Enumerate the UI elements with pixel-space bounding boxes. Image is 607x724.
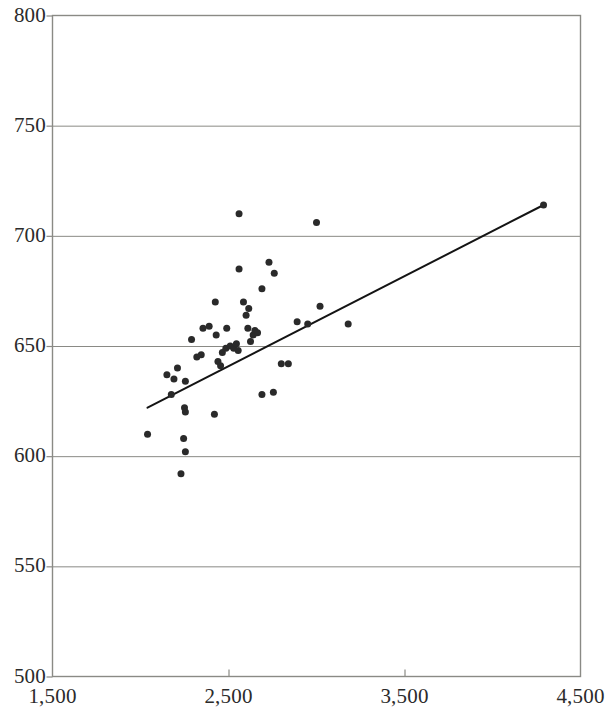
trendline — [148, 205, 544, 408]
data-point — [285, 360, 292, 367]
data-point — [177, 470, 184, 477]
data-point — [144, 431, 151, 438]
data-point — [313, 219, 320, 226]
y-axis-tick-label: 550 — [0, 555, 46, 576]
data-point — [236, 265, 243, 272]
data-point — [265, 259, 272, 266]
y-axis-tick-label: 650 — [0, 335, 46, 356]
x-axis-tick-label: 2,500 — [184, 686, 274, 707]
data-point — [223, 325, 230, 332]
data-point — [206, 323, 213, 330]
x-axis-tick-label: 1,500 — [8, 686, 98, 707]
data-point — [317, 303, 324, 310]
data-point — [294, 318, 301, 325]
x-axis-tick-label: 4,500 — [536, 686, 607, 707]
y-axis-tick-label: 600 — [0, 445, 46, 466]
data-point — [254, 329, 261, 336]
plot-canvas — [0, 0, 607, 724]
data-point — [247, 338, 254, 345]
data-point — [243, 312, 250, 319]
data-point — [168, 391, 175, 398]
y-axis-tick-label: 700 — [0, 225, 46, 246]
data-point — [199, 325, 206, 332]
data-point — [182, 409, 189, 416]
data-point — [188, 336, 195, 343]
data-point — [180, 435, 187, 442]
data-point — [240, 298, 247, 305]
data-point — [258, 391, 265, 398]
data-point — [271, 270, 278, 277]
data-point — [245, 305, 252, 312]
data-point — [217, 362, 224, 369]
data-point — [174, 365, 181, 372]
data-point — [213, 331, 220, 338]
data-point — [270, 389, 277, 396]
data-points-group — [144, 201, 547, 477]
y-axis-tick-label: 800 — [0, 5, 46, 26]
data-point — [182, 378, 189, 385]
data-point — [244, 325, 251, 332]
data-point — [258, 285, 265, 292]
data-point — [233, 340, 240, 347]
data-point — [304, 320, 311, 327]
y-axis-tick-label: 750 — [0, 115, 46, 136]
data-point — [212, 298, 219, 305]
data-point — [198, 351, 205, 358]
data-point — [278, 360, 285, 367]
data-point — [163, 371, 170, 378]
data-point — [170, 376, 177, 383]
data-point — [211, 411, 218, 418]
scatter-chart: 500550600650700750800 1,5002,5003,5004,5… — [0, 0, 607, 724]
data-point — [236, 210, 243, 217]
gridlines-group — [53, 126, 581, 567]
data-point — [235, 347, 242, 354]
trendline-segment — [148, 205, 544, 408]
data-point — [540, 201, 547, 208]
data-point — [182, 448, 189, 455]
figure-caption-strip — [0, 714, 607, 724]
data-point — [345, 320, 352, 327]
x-axis-tick-label: 3,500 — [360, 686, 450, 707]
